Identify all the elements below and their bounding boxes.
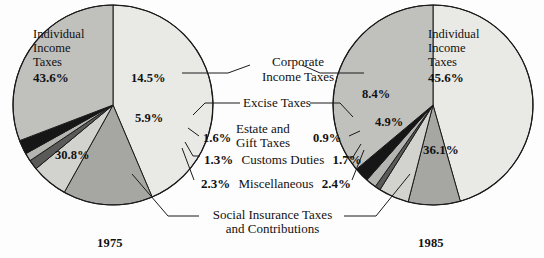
right-social-value: 36.1% (423, 143, 459, 158)
callout-social-line2: and Contributions (200, 222, 345, 236)
left-corporate-value: 14.5% (131, 71, 165, 85)
right-individual-line3: Taxes (428, 55, 479, 69)
right-corporate-value: 8.4% (362, 87, 390, 101)
right-excise-value: 4.9% (375, 115, 403, 129)
callout-estate: Estate and Gift Taxes (236, 122, 290, 149)
figure-root: Individual Income Taxes 43.6% 14.5% 5.9%… (0, 0, 544, 258)
right-individual-line2: Income (428, 41, 479, 55)
right-individual-line1: Individual (428, 27, 479, 41)
left-individual-line3: Taxes (33, 55, 84, 69)
left-excise-value: 5.9% (135, 111, 163, 125)
left-estate-value: 1.6% (203, 131, 231, 145)
year-label-1975: 1975 (97, 236, 123, 250)
year-label-1985: 1985 (418, 236, 444, 250)
right-customs-value: 1.7% (332, 152, 361, 167)
callout-misc: Miscellaneous (239, 176, 314, 191)
callout-social-line1: Social Insurance Taxes (200, 208, 345, 222)
callout-estate-line2: Gift Taxes (236, 136, 290, 150)
left-individual-value: 43.6% (33, 71, 84, 86)
left-misc-value: 2.3% (201, 176, 230, 191)
right-individual-value: 45.6% (428, 71, 479, 86)
callout-corporate-line1: Corporate (248, 55, 348, 70)
left-individual-line1: Individual (33, 27, 84, 41)
left-individual-label: Individual Income Taxes 43.6% (33, 27, 84, 86)
right-estate-value: 0.9% (313, 131, 341, 145)
callout-customs: Customs Duties (242, 152, 325, 167)
callout-estate-line1: Estate and (236, 122, 290, 136)
left-customs-value: 1.3% (204, 152, 233, 167)
callout-corporate: Corporate Income Taxes (248, 55, 348, 84)
right-misc-value: 2.4% (322, 176, 351, 191)
callout-customs-row: 1.3% Customs Duties 1.7% (204, 152, 362, 168)
callout-corporate-line2: Income Taxes (248, 70, 348, 85)
left-social-value: 30.8% (55, 148, 89, 162)
callout-excise: Excise Taxes (243, 96, 307, 111)
right-individual-label: Individual Income Taxes 45.6% (428, 27, 479, 86)
callout-misc-row: 2.3% Miscellaneous 2.4% (201, 176, 351, 192)
left-individual-line2: Income (33, 41, 84, 55)
callout-social: Social Insurance Taxes and Contributions (200, 208, 345, 237)
